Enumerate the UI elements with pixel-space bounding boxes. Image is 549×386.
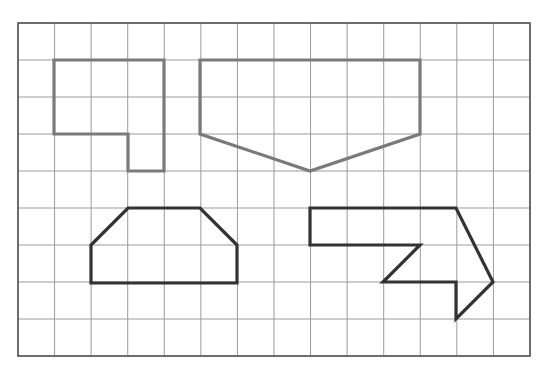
grid-lines	[18, 23, 530, 356]
step-hexagon	[54, 60, 164, 171]
home-plate-pentagon	[200, 60, 420, 171]
shapes-on-grid-diagram	[0, 0, 549, 386]
worksheet-canvas	[0, 0, 549, 386]
block-arrow	[310, 208, 493, 319]
